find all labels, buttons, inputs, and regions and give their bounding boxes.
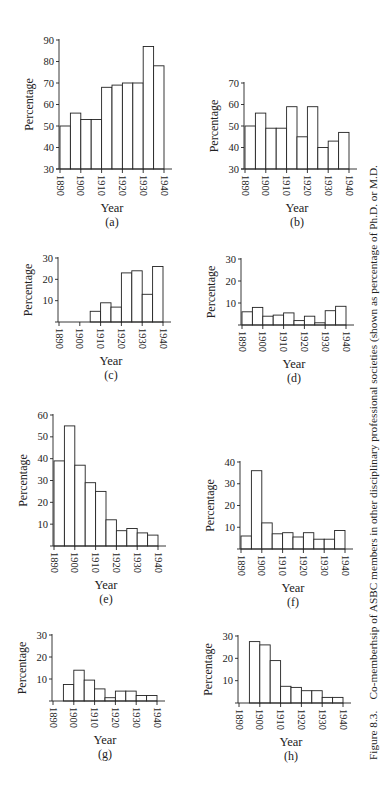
y-tick-label: 60 (38, 410, 49, 421)
x-tick-label: 1890 (236, 555, 247, 576)
x-tick-label: 1930 (138, 175, 149, 196)
histogram-bar (262, 523, 272, 549)
y-tick-label: 40 (229, 142, 240, 153)
histogram-bar (293, 537, 303, 549)
histogram-bar (283, 533, 293, 549)
y-tick-label: 30 (226, 254, 237, 265)
histogram-bar (314, 539, 324, 549)
caption-label: Figure 8.3. (367, 711, 379, 760)
panel-label: (g) (98, 747, 112, 761)
x-tick-label: 1890 (237, 331, 248, 352)
y-tick-label: 30 (223, 631, 234, 642)
y-tick-label: 30 (38, 475, 49, 486)
histogram-bar (116, 531, 126, 546)
y-axis-label: Percentage (201, 643, 215, 696)
y-axis-label: Percentage (22, 78, 36, 131)
histogram-bar (303, 533, 313, 549)
panel-label: (h) (284, 749, 298, 763)
histogram-panel-e: 102030405060189019001910192019301940Perc… (16, 410, 166, 607)
figure-caption: Figure 8.3. Co-memberhsip of ASBC member… (367, 165, 379, 760)
histogram-bar (70, 113, 80, 169)
y-tick-label: 30 (43, 253, 54, 264)
histogram-panel-b: 3040506070189019001910192019301940Percen… (207, 78, 357, 230)
y-tick-label: 50 (229, 121, 240, 132)
panel-label: (c) (104, 368, 117, 382)
histogram-bar (106, 520, 116, 546)
histogram-bar (252, 307, 262, 325)
x-tick-label: 1940 (152, 707, 163, 728)
y-tick-label: 30 (225, 478, 236, 489)
x-tick-label: 1910 (90, 552, 101, 573)
y-tick-label: 10 (226, 298, 237, 309)
x-axis-label: Year (100, 201, 124, 215)
x-tick-label: 1900 (254, 709, 265, 730)
y-tick-label: 20 (223, 653, 234, 664)
histogram-panel-g: 102030189019001910192019301940Percentage… (15, 630, 165, 762)
histogram-bar (111, 307, 121, 322)
histogram-bar (318, 148, 328, 170)
histogram-bar (81, 120, 91, 170)
histogram-bar (284, 313, 294, 325)
histogram-bar (249, 642, 259, 703)
panel-label: (b) (290, 215, 304, 229)
y-tick-label: 10 (223, 675, 234, 686)
x-tick-label: 1940 (159, 175, 170, 196)
x-tick-label: 1930 (131, 707, 142, 728)
x-axis-label: Year (282, 357, 306, 371)
histogram-bar (287, 107, 297, 169)
histogram-bar (132, 271, 142, 322)
histogram-bar (251, 471, 261, 549)
histogram-bar (64, 426, 74, 546)
y-axis-label: Percentage (16, 454, 30, 507)
y-axis-label: Percentage (15, 642, 29, 695)
y-tick-label: 70 (44, 78, 55, 89)
x-tick-label: 1910 (278, 331, 289, 352)
x-tick-label: 1900 (75, 175, 86, 196)
histogram-bar (75, 465, 85, 546)
x-tick-label: 1890 (48, 707, 59, 728)
x-tick-label: 1920 (296, 709, 307, 730)
x-tick-label: 1900 (69, 552, 80, 573)
y-tick-label: 50 (38, 431, 49, 442)
histogram-bar (91, 120, 101, 170)
x-tick-label: 1910 (95, 328, 106, 349)
y-axis-label: Percentage (21, 264, 35, 317)
histogram-bar (324, 539, 334, 549)
histogram-bar (294, 321, 304, 325)
panel-label: (e) (99, 592, 112, 606)
x-tick-label: 1910 (277, 555, 288, 576)
histogram-bar (272, 534, 282, 549)
x-tick-label: 1900 (256, 555, 267, 576)
x-tick-label: 1900 (74, 328, 85, 349)
histogram-bar (260, 645, 270, 703)
histogram-bar (297, 137, 307, 169)
histogram-bar (153, 267, 163, 323)
histogram-bar (133, 83, 143, 169)
x-axis-label: Year (285, 201, 309, 215)
x-tick-label: 1920 (298, 555, 309, 576)
y-tick-label: 60 (229, 99, 240, 110)
y-tick-label: 10 (43, 295, 54, 306)
panel-label: (a) (105, 215, 118, 229)
figure: 30405060708090189019001910192019301940Pe… (0, 0, 389, 794)
histogram-bar (101, 303, 111, 322)
x-tick-label: 1940 (158, 328, 169, 349)
histogram-bar (325, 311, 335, 325)
histogram-bar (241, 536, 251, 549)
histogram-bar (136, 696, 146, 702)
x-axis-label: Year (281, 581, 305, 595)
histogram-bar (263, 316, 273, 325)
x-tick-label: 1920 (110, 707, 121, 728)
histogram-panel-a: 30405060708090189019001910192019301940Pe… (22, 35, 172, 230)
x-tick-label: 1940 (153, 552, 164, 573)
x-tick-label: 1940 (338, 709, 349, 730)
histogram-bar (115, 691, 125, 701)
histogram-bar (291, 687, 301, 703)
histogram-bar (142, 294, 152, 322)
y-tick-label: 20 (226, 276, 237, 287)
histogram-bar (255, 113, 265, 169)
x-axis-label: Year (94, 578, 118, 592)
histogram-bar (245, 126, 255, 169)
histogram-bar (270, 661, 280, 703)
histogram-bar (137, 533, 147, 546)
